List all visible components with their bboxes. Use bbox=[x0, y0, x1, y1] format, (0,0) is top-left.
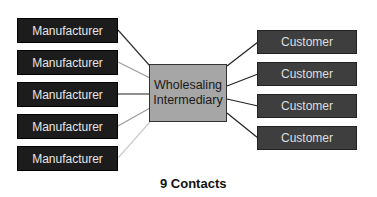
manufacturer-node-5: Manufacturer bbox=[17, 146, 118, 171]
manufacturer-label: Manufacturer bbox=[32, 88, 103, 102]
customer-label: Customer bbox=[281, 35, 333, 49]
intermediary-label-line1: Wholesaling bbox=[154, 78, 222, 93]
manufacturer-node-2: Manufacturer bbox=[17, 50, 118, 75]
manufacturer-label: Manufacturer bbox=[32, 152, 103, 166]
customer-node-1: Customer bbox=[257, 30, 357, 54]
manufacturer-label: Manufacturer bbox=[32, 120, 103, 134]
manufacturer-node-3: Manufacturer bbox=[17, 82, 118, 107]
customer-label: Customer bbox=[281, 131, 333, 145]
manufacturer-label: Manufacturer bbox=[32, 56, 103, 70]
customer-node-4: Customer bbox=[257, 126, 357, 150]
customer-node-2: Customer bbox=[257, 62, 357, 86]
customer-node-3: Customer bbox=[257, 94, 357, 118]
manufacturer-node-1: Manufacturer bbox=[17, 18, 118, 43]
contacts-caption: 9 Contacts bbox=[160, 176, 226, 191]
wholesaling-intermediary-node: Wholesaling Intermediary bbox=[149, 64, 227, 122]
manufacturer-node-4: Manufacturer bbox=[17, 114, 118, 139]
customer-label: Customer bbox=[281, 67, 333, 81]
manufacturer-label: Manufacturer bbox=[32, 24, 103, 38]
intermediary-label-line2: Intermediary bbox=[153, 93, 222, 108]
customer-label: Customer bbox=[281, 99, 333, 113]
